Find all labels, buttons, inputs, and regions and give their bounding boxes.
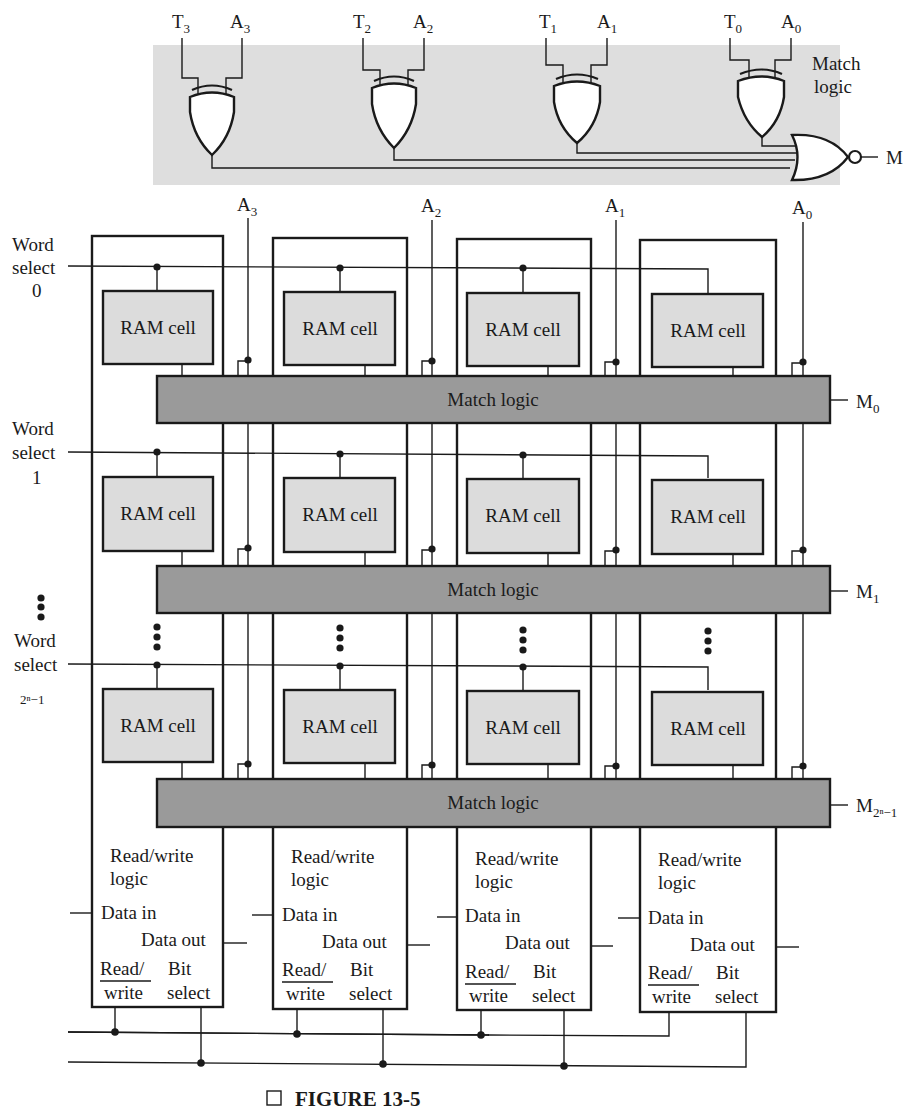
input-label-a0: A0: [781, 11, 801, 36]
ram-cell-label: RAM cell: [302, 504, 377, 525]
ram-cell-label: RAM cell: [485, 505, 560, 526]
data-in-label: Data in: [648, 907, 704, 928]
ram-cell-label: RAM cell: [670, 320, 745, 341]
bit-select-label: select: [349, 983, 393, 1004]
bit-select-label: select: [715, 986, 759, 1007]
read-write-label: Read/: [282, 959, 327, 980]
read-write-label: Read/: [465, 961, 510, 982]
input-label-t1: T1: [539, 11, 557, 36]
address-label-a0: A0: [792, 197, 812, 222]
match-logic-title-1: Match: [812, 53, 861, 74]
read-write-label: Read/: [648, 962, 693, 983]
input-label-a1: A1: [597, 11, 617, 36]
data-out-label: Data out: [690, 934, 756, 955]
address-label-a1: A1: [605, 195, 625, 220]
bit-select-label: Bit: [533, 961, 557, 982]
input-label-a3: A3: [230, 11, 250, 36]
bit-select-label: select: [532, 985, 576, 1006]
ram-cell-label: RAM cell: [120, 317, 195, 338]
rw-title: Read/write: [291, 846, 374, 867]
data-out-label: Data out: [322, 931, 388, 952]
match-logic-detail: T3 A3 T2 A2 T1 A1 T0 A0 Match logic: [153, 11, 903, 185]
word-select-label: Word: [14, 630, 56, 651]
rw-title: logic: [475, 871, 513, 892]
word-select-label: 2ⁿ−1: [20, 692, 44, 707]
match-output-m1: M1: [856, 581, 879, 606]
bit-select-label: Bit: [716, 962, 740, 983]
data-out-label: Data out: [505, 932, 571, 953]
rw-title: Read/write: [110, 845, 193, 866]
rw-title: logic: [110, 868, 148, 889]
data-in-label: Data in: [282, 904, 338, 925]
match-output-m0: M0: [856, 391, 879, 416]
ram-cell-label: RAM cell: [670, 718, 745, 739]
ram-cell-label: RAM cell: [302, 318, 377, 339]
figure-caption: FIGURE 13-5: [267, 1087, 420, 1111]
bit-select-label: Bit: [168, 958, 192, 979]
read-write-label: write: [286, 983, 325, 1004]
rw-title: Read/write: [658, 849, 741, 870]
ram-cell-label: RAM cell: [485, 717, 560, 738]
match-logic-bar-label: Match logic: [447, 389, 538, 410]
match-output-mlast: M2ⁿ−1: [856, 795, 897, 820]
bit-select-label: select: [167, 982, 211, 1003]
ram-cell-label: RAM cell: [670, 506, 745, 527]
word-select-label: Word: [12, 234, 54, 255]
ram-cell-label: RAM cell: [485, 319, 560, 340]
input-label-t2: T2: [353, 11, 371, 36]
match-logic-title-2: logic: [814, 76, 852, 97]
word-select-label: 1: [32, 467, 42, 488]
data-in-label: Data in: [101, 902, 157, 923]
cam-block-diagram: T3 A3 T2 A2 T1 A1 T0 A0 Match logic: [0, 0, 922, 1116]
ram-cell-label: RAM cell: [120, 503, 195, 524]
input-label-t3: T3: [172, 11, 190, 36]
memory-array: A3 A2 A1 A0 Word select 0 RAM cell RAM c…: [12, 194, 897, 1070]
ram-cell-label: RAM cell: [302, 716, 377, 737]
word-select-label: Word: [12, 418, 54, 439]
caption-marker-icon: [267, 1091, 281, 1105]
caption-text: FIGURE 13-5: [295, 1087, 420, 1111]
word-select-label: select: [12, 442, 56, 463]
ram-cell-label: RAM cell: [120, 715, 195, 736]
address-label-a2: A2: [421, 195, 441, 220]
word-select-label: 0: [32, 280, 42, 301]
data-in-label: Data in: [465, 905, 521, 926]
read-write-label: write: [469, 985, 508, 1006]
read-write-label: Read/: [100, 958, 145, 979]
input-label-a2: A2: [413, 11, 433, 36]
match-output-label: M: [886, 147, 903, 168]
rw-title: Read/write: [475, 848, 558, 869]
control-buses: [68, 1007, 746, 1070]
match-logic-bar-label: Match logic: [447, 579, 538, 600]
address-label-a3: A3: [237, 194, 257, 219]
match-logic-panel: [153, 45, 840, 185]
bit-select-label: Bit: [350, 959, 374, 980]
read-write-label: write: [104, 982, 143, 1003]
match-logic-bar-label: Match logic: [447, 792, 538, 813]
rw-title: logic: [291, 869, 329, 890]
input-label-t0: T0: [724, 11, 742, 36]
read-write-label: write: [652, 986, 691, 1007]
word-select-label: select: [12, 257, 56, 278]
data-out-label: Data out: [141, 929, 207, 950]
rw-title: logic: [658, 872, 696, 893]
word-select-label: select: [14, 654, 58, 675]
